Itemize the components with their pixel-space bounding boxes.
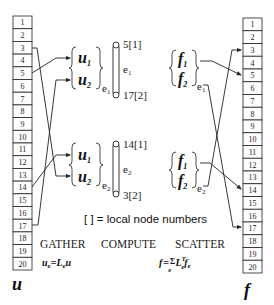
array-cell-index: 17 (249, 224, 257, 233)
array-cell-index: 20 (19, 260, 27, 269)
u1-entry: u1 (78, 49, 91, 68)
array-cell-index: 5 (251, 71, 255, 80)
scatter-formula: f=ΣeLTefe (159, 255, 191, 274)
array-cell-index: 12 (249, 161, 257, 170)
f2-entry: f2 (178, 70, 187, 89)
array-cell-index: 12 (19, 158, 27, 167)
array-cell-index: 8 (21, 107, 25, 116)
array-cell-index: 14 (19, 183, 27, 192)
f-vector-element-tag: e2 (197, 182, 206, 196)
array-cell-index: 1 (21, 18, 25, 27)
array-cell-index: 15 (249, 199, 257, 208)
array-cell-index: 2 (251, 33, 255, 42)
array-cell-index: 11 (249, 148, 257, 157)
phase-scatter-label: SCATTER (175, 238, 225, 250)
array-cell-index: 13 (249, 173, 257, 182)
array-cell-index: 9 (21, 120, 25, 129)
node-bottom-label: 17[2] (123, 89, 147, 101)
node-top-label: 14[1] (123, 138, 147, 150)
global-vector-f: 1234567891011121314151617181920 (243, 18, 262, 273)
array-cell-index: 11 (19, 145, 27, 154)
element-label: e1 (123, 63, 132, 77)
f1-entry: f1 (178, 50, 187, 69)
gather-arrow-u5-to-e1-u1 (32, 58, 70, 73)
array-cell-index: 5 (21, 69, 25, 78)
array-cell-index: 4 (251, 59, 255, 68)
array-cell-index: 16 (19, 209, 27, 218)
element-2-group: u1 u2 e2 14[1] e2 3[2] f1 f2 e2 (69, 138, 206, 201)
array-cell-index: 18 (249, 237, 257, 246)
u-vector-element-tag: e2 (102, 179, 111, 193)
array-cell-index: 9 (251, 122, 255, 131)
element-label: e2 (123, 163, 132, 177)
gather-arrow-u17-to-e1-u2 (32, 80, 70, 225)
array-cell-index: 10 (249, 135, 257, 144)
array-cell-index: 15 (19, 196, 27, 205)
local-node-legend: [ ] = local node numbers (84, 213, 207, 225)
gather-arrow-u3-to-e2-u2 (32, 48, 70, 176)
u1-entry: u1 (78, 146, 91, 165)
array-cell-index: 17 (19, 222, 27, 231)
phase-gather-label: GATHER (40, 238, 86, 250)
scatter-arrow-e1-f1-to-f5 (200, 61, 241, 75)
u2-entry: u2 (78, 71, 91, 90)
array-cell-index: 2 (21, 31, 25, 40)
element-1-f-vector: f1 f2 e1 (169, 50, 206, 94)
array-cell-index: 6 (251, 84, 255, 93)
left-brace-icon (169, 152, 176, 188)
f1-entry: f1 (178, 152, 187, 171)
node-bottom-icon (113, 191, 119, 197)
phase-compute-label: COMPUTE (101, 238, 156, 250)
scatter-connectors (200, 50, 241, 227)
node-top-icon (113, 141, 119, 147)
gather-scatter-diagram: 1234567891011121314151617181920 u 123456… (0, 0, 274, 305)
global-vector-f-label: f (244, 280, 252, 300)
array-cell-index: 3 (251, 46, 255, 55)
element-2-bar: 14[1] e2 3[2] (113, 138, 147, 201)
array-cell-index: 3 (21, 44, 25, 53)
array-cell-index: 13 (19, 171, 27, 180)
element-1-u-vector: u1 u2 e1 (69, 47, 111, 96)
u2-entry: u2 (78, 168, 91, 187)
array-cell-index: 20 (249, 263, 257, 272)
element-1-group: u1 u2 e1 5[1] e1 17[2] f1 f2 e1 (69, 38, 206, 101)
array-cell-index: 8 (251, 110, 255, 119)
element-2-f-vector: f1 f2 e2 (169, 152, 206, 196)
array-cell-index: 4 (21, 56, 25, 65)
array-cell-index: 1 (251, 20, 255, 29)
array-cell-index: 7 (21, 95, 25, 104)
node-top-label: 5[1] (123, 38, 141, 50)
element-2-u-vector: u1 u2 e2 (69, 143, 111, 193)
node-top-icon (113, 42, 119, 48)
left-brace-icon (69, 143, 76, 186)
node-bottom-icon (113, 92, 119, 98)
array-cell-index: 7 (251, 97, 255, 106)
array-cell-index: 19 (249, 250, 257, 259)
left-brace-icon (169, 50, 176, 86)
gather-connectors (32, 48, 70, 225)
u-vector-element-tag: e1 (102, 82, 111, 96)
global-vector-u-label: u (12, 274, 22, 294)
scatter-arrow-e2-f1-to-f14 (200, 163, 241, 189)
f2-entry: f2 (178, 172, 187, 191)
gather-formula: ue=Leu (42, 257, 72, 270)
array-cell-index: 19 (19, 247, 27, 256)
f-vector-element-tag: e1 (197, 80, 206, 94)
left-brace-icon (69, 47, 76, 89)
array-cell-index: 6 (21, 82, 25, 91)
array-cell-index: 10 (19, 133, 27, 142)
element-1-bar: 5[1] e1 17[2] (113, 38, 147, 101)
global-vector-u: 1234567891011121314151617181920 (13, 16, 32, 270)
array-cell-index: 18 (19, 234, 27, 243)
node-bottom-label: 3[2] (123, 189, 141, 201)
gather-arrow-u14-to-e2-u1 (32, 155, 70, 187)
array-cell-index: 14 (249, 186, 257, 195)
array-cell-index: 16 (249, 212, 257, 221)
